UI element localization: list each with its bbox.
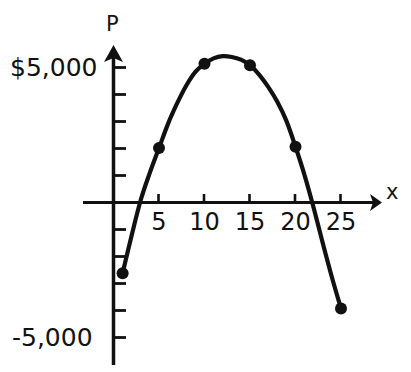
x-tick-label: 20 <box>271 210 321 234</box>
data-point <box>117 267 129 279</box>
x-axis-title: x <box>386 182 398 203</box>
y-axis-title: P <box>106 14 119 35</box>
x-tick-label: 5 <box>134 210 184 234</box>
data-point-markers <box>117 58 347 315</box>
x-tick-label: 10 <box>180 210 230 234</box>
profit-curve <box>123 56 341 308</box>
y-axis-bottom-value-label: -5,000 <box>12 325 93 350</box>
data-point <box>290 141 302 153</box>
x-tick-label: 25 <box>316 210 366 234</box>
data-point <box>244 59 256 71</box>
data-point <box>153 142 165 154</box>
chart-figure: P x $5,000 -5,000 510152025 <box>0 0 411 372</box>
data-point <box>335 303 347 315</box>
data-point <box>199 58 211 70</box>
x-tick-label: 15 <box>225 210 275 234</box>
y-axis-top-value-label: $5,000 <box>10 55 97 80</box>
